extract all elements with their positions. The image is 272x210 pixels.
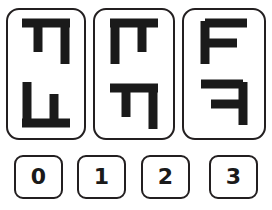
option-card-1[interactable] <box>93 8 175 140</box>
pi-shape-icon <box>105 14 163 70</box>
answer-button-3[interactable]: 3 <box>209 155 258 199</box>
answer-button-0-label: 0 <box>31 166 46 188</box>
option-card-0-bottom-glyph <box>8 76 84 138</box>
answer-button-1[interactable]: 1 <box>77 155 126 199</box>
inverted-pi-shape-icon <box>17 76 75 132</box>
answer-button-2-label: 2 <box>158 166 173 188</box>
option-card-0-top-glyph <box>8 14 84 76</box>
answer-button-1-label: 1 <box>94 166 109 188</box>
letter-f-icon <box>195 14 253 70</box>
option-card-1-top-glyph <box>95 14 173 76</box>
option-card-0[interactable] <box>6 8 86 140</box>
answer-button-3-label: 3 <box>226 166 241 188</box>
answer-button-2[interactable]: 2 <box>141 155 190 199</box>
puzzle-root: 0 1 2 3 <box>0 0 272 210</box>
pi-shape-icon <box>17 14 75 70</box>
answer-button-0[interactable]: 0 <box>14 155 63 199</box>
answer-buttons-row: 0 1 2 3 <box>0 152 272 208</box>
option-card-2[interactable] <box>182 8 266 140</box>
option-cards-row <box>0 0 272 148</box>
option-card-2-top-glyph <box>184 14 264 76</box>
option-card-1-bottom-glyph <box>95 76 173 138</box>
option-card-2-bottom-glyph <box>184 76 264 138</box>
pi-shape-icon <box>105 76 163 132</box>
mirrored-letter-f-icon <box>195 76 253 132</box>
